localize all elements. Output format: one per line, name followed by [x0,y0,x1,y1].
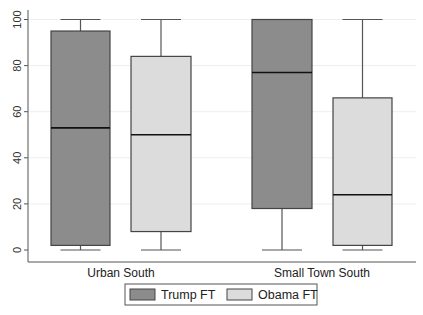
x-category-label: Small Town South [274,266,370,280]
y-tick-label: 0 [11,247,23,253]
legend: Trump FT Obama FT [125,284,318,305]
legend-label-trump: Trump FT [161,288,216,302]
y-tick-label: 80 [11,59,23,71]
box-plot-series [51,20,392,251]
y-tick-label: 40 [11,152,23,164]
x-category-label: Urban South [87,266,154,280]
legend-label-obama: Obama FT [258,288,318,302]
y-tick-label: 100 [11,10,23,28]
legend-swatch-obama [227,289,252,300]
legend-swatch-trump [130,289,155,300]
y-tick-label: 20 [11,198,23,210]
box-trump-ft-0 [51,20,110,251]
box-trump-ft-1 [252,20,312,251]
box-plot-chart: 020406080100 Urban SouthSmall Town South… [0,0,423,315]
box-obama-ft-1 [333,20,392,251]
x-axis-labels: Urban SouthSmall Town South [87,266,370,280]
y-tick-label: 60 [11,106,23,118]
box-obama-ft-0 [131,20,191,251]
y-axis-ticks: 020406080100 [11,10,28,253]
